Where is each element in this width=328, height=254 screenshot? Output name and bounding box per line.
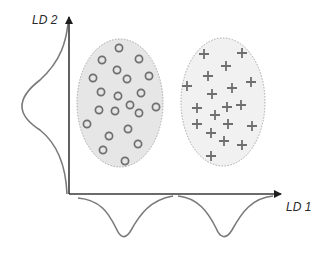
- ld1-density-curve-1: [78, 196, 173, 237]
- ld2-density-curve: [22, 24, 68, 194]
- ld1-axis-label: LD 1: [286, 200, 311, 214]
- ld2-axis-label: LD 2: [32, 13, 58, 27]
- cluster-class-pluses: [181, 38, 265, 166]
- clusters: [77, 38, 265, 167]
- cluster-ellipse: [77, 39, 163, 167]
- ld1-density-curve-2: [178, 196, 273, 237]
- cluster-class-circles: [77, 39, 163, 167]
- lda-diagram: LD 2 LD 1: [0, 0, 328, 254]
- cluster-ellipse: [181, 38, 265, 166]
